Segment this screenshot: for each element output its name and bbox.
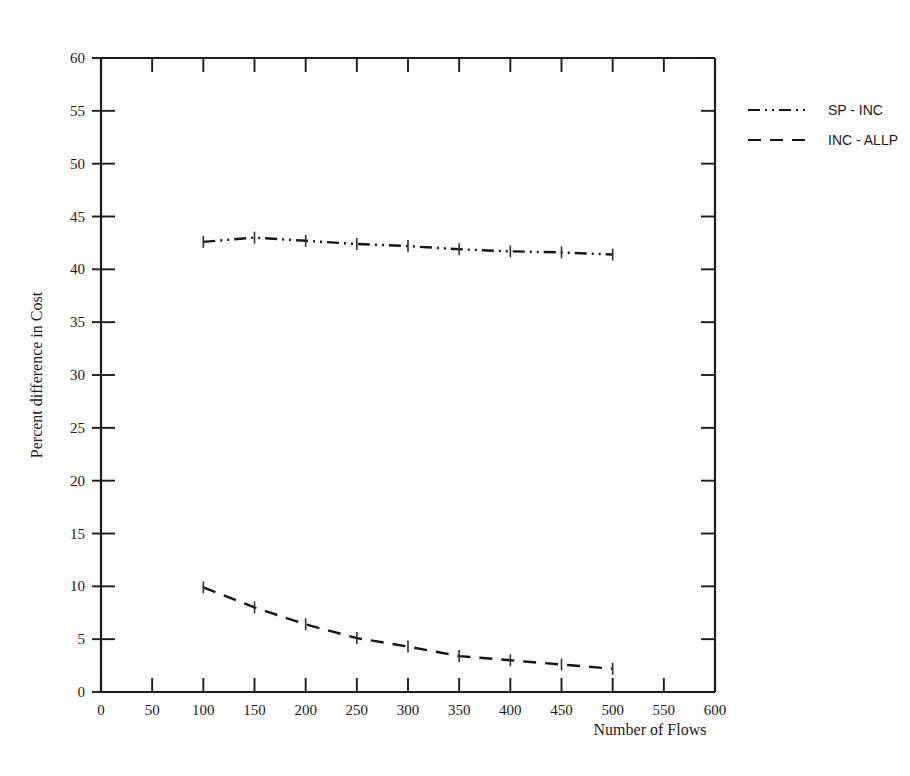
x-tick-label-550: 550	[653, 702, 676, 718]
x-axis-ticks	[101, 58, 715, 692]
y-tick-label-40: 40	[70, 261, 85, 277]
x-tick-label-200: 200	[294, 702, 317, 718]
x-tick-label-500: 500	[601, 702, 624, 718]
x-tick-labels: 050100150200250300350400450500550600	[97, 702, 726, 718]
x-tick-label-100: 100	[192, 702, 215, 718]
y-tick-label-50: 50	[70, 156, 85, 172]
y-tick-label-5: 5	[78, 631, 86, 647]
x-tick-label-250: 250	[346, 702, 369, 718]
x-tick-label-600: 600	[704, 702, 727, 718]
y-tick-label-25: 25	[70, 420, 85, 436]
legend-label-sp-inc: SP - INC	[828, 102, 883, 118]
x-tick-label-400: 400	[499, 702, 522, 718]
x-tick-label-150: 150	[243, 702, 266, 718]
y-axis-ticks	[92, 58, 715, 692]
y-axis-title: Percent difference in Cost	[28, 291, 45, 458]
x-axis-title: Number of Flows	[594, 721, 707, 738]
x-tick-label-0: 0	[97, 702, 105, 718]
y-tick-labels: 051015202530354045505560	[70, 50, 85, 700]
y-tick-label-20: 20	[70, 473, 85, 489]
y-tick-label-15: 15	[70, 526, 85, 542]
y-tick-label-35: 35	[70, 314, 85, 330]
y-tick-label-30: 30	[70, 367, 85, 383]
x-tick-label-450: 450	[550, 702, 573, 718]
y-tick-label-45: 45	[70, 209, 85, 225]
legend-label-inc-allp: INC - ALLP	[828, 132, 898, 148]
legend-group: SP - INCINC - ALLP	[748, 102, 898, 148]
series-line-inc-allp	[203, 587, 612, 668]
line-chart: 050100150200250300350400450500550600 051…	[0, 0, 910, 776]
x-tick-label-50: 50	[145, 702, 160, 718]
y-tick-label-55: 55	[70, 103, 85, 119]
y-tick-label-0: 0	[78, 684, 86, 700]
data-series	[203, 232, 612, 675]
y-tick-label-10: 10	[70, 578, 85, 594]
y-tick-label-60: 60	[70, 50, 85, 66]
x-tick-label-350: 350	[448, 702, 471, 718]
plot-frame	[101, 58, 715, 692]
x-tick-label-300: 300	[397, 702, 420, 718]
chart-page: 050100150200250300350400450500550600 051…	[0, 0, 910, 776]
